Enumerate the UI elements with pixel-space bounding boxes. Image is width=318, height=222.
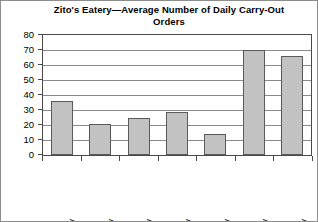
- bar-slot: [234, 35, 272, 155]
- y-axis-tick-label: 10: [4, 135, 34, 145]
- x-axis-tick-label: Wednesday: [171, 163, 183, 221]
- chart-title-line-1: Zito's Eatery—Average Number of Daily Ca…: [31, 4, 307, 16]
- x-axis-tick-mark: [273, 156, 274, 161]
- y-axis-tick-label: 50: [4, 75, 34, 85]
- x-axis-tick-mark: [81, 156, 82, 161]
- chart-title-line-2: Orders: [31, 16, 307, 28]
- x-axis-tick-label-text: Wednesday: [182, 219, 193, 222]
- y-axis-tick-mark: [38, 109, 42, 110]
- x-axis-tick-label: Friday: [248, 163, 260, 221]
- y-axis-tick-label: 0: [4, 150, 34, 160]
- x-axis-tick-label: Saturday: [287, 163, 299, 221]
- x-axis-tick-label-text: Friday: [259, 219, 270, 222]
- y-axis-tick-label: 60: [4, 60, 34, 70]
- x-axis-tick-mark: [158, 156, 159, 161]
- bar: [128, 118, 150, 156]
- y-axis-tick-mark: [38, 154, 42, 155]
- bar-slot: [120, 35, 158, 155]
- y-axis-tick-mark: [38, 139, 42, 140]
- x-axis-tick-label: Sunday: [55, 163, 67, 221]
- x-axis-tick-mark: [119, 156, 120, 161]
- bar: [281, 56, 303, 155]
- bar-chart-figure: Zito's Eatery—Average Number of Daily Ca…: [0, 0, 318, 222]
- bar-slot: [158, 35, 196, 155]
- bar-series: [43, 35, 311, 155]
- bar-slot: [273, 35, 311, 155]
- plot-area: [42, 34, 312, 156]
- x-axis-tick-mark: [235, 156, 236, 161]
- y-axis-tick-mark: [38, 79, 42, 80]
- y-axis-tick-mark: [38, 34, 42, 35]
- x-axis-tick-label: Thursday: [210, 163, 222, 221]
- y-axis-tick-label: 30: [4, 105, 34, 115]
- chart-title: Zito's Eatery—Average Number of Daily Ca…: [31, 4, 307, 28]
- bar: [166, 112, 188, 156]
- x-axis-tick-label-text: Saturday: [298, 219, 309, 222]
- y-axis-tick-label: 40: [4, 90, 34, 100]
- x-axis-tick-label-text: Thursday: [221, 219, 232, 222]
- bar: [89, 124, 111, 156]
- x-axis-tick-mark: [196, 156, 197, 161]
- bar: [204, 134, 226, 155]
- x-axis-tick-label-text: Sunday: [66, 219, 77, 222]
- y-axis-tick-label: 80: [4, 30, 34, 40]
- bar-slot: [196, 35, 234, 155]
- bar-slot: [81, 35, 119, 155]
- x-axis-tick-label: Tuesday: [132, 163, 144, 221]
- bar: [51, 101, 73, 155]
- x-axis-tick-mark: [42, 156, 43, 161]
- bar: [243, 50, 265, 155]
- x-axis-tick-label-text: Monday: [105, 219, 116, 222]
- bar-slot: [43, 35, 81, 155]
- y-axis-tick-mark: [38, 49, 42, 50]
- y-axis-tick-mark: [38, 64, 42, 65]
- x-axis-tick-mark: [312, 156, 313, 161]
- x-axis-tick-label-text: Tuesday: [143, 219, 154, 222]
- y-axis-tick-label: 70: [4, 45, 34, 55]
- y-axis-tick-label: 20: [4, 120, 34, 130]
- y-axis-tick-mark: [38, 94, 42, 95]
- x-axis-tick-label: Monday: [94, 163, 106, 221]
- y-axis-tick-mark: [38, 124, 42, 125]
